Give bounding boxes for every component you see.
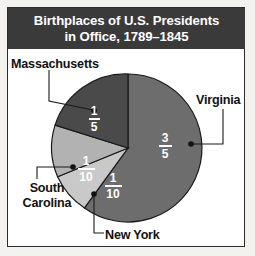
- pie-value-virginia: 3 5: [152, 132, 178, 160]
- pie-value-south-carolina: 1 10: [73, 155, 99, 183]
- pie-value-massachusetts-denominator: 5: [81, 121, 107, 133]
- pie-label-south-carolina-line-2: Carolina: [9, 196, 85, 211]
- pie-value-new-york-numerator: 1: [100, 172, 126, 184]
- pie-value-virginia-numerator: 3: [152, 132, 178, 144]
- figure-container: Birthplaces of U.S. Presidents in Office…: [0, 0, 255, 256]
- pie-value-new-york-denominator: 10: [100, 188, 126, 200]
- pie-label-massachusetts: Massachusetts: [11, 57, 99, 72]
- pie-value-virginia-denominator: 5: [152, 148, 178, 160]
- pie-value-massachusetts: 1 5: [81, 105, 107, 133]
- pie-label-south-carolina-line-1: South: [9, 181, 85, 196]
- pie-label-south-carolina: South Carolina: [9, 181, 85, 210]
- pie-value-south-carolina-denominator: 10: [73, 171, 99, 183]
- pie-label-new-york: New York: [105, 228, 160, 243]
- leader-dot-new-york: [91, 191, 97, 197]
- leader-dot-virginia: [188, 141, 194, 147]
- pie-value-south-carolina-numerator: 1: [73, 155, 99, 167]
- pie-label-virginia: Virginia: [196, 93, 240, 108]
- pie-value-new-york: 1 10: [100, 172, 126, 200]
- pie-value-massachusetts-numerator: 1: [81, 105, 107, 117]
- pie-chart-graphic: [0, 0, 255, 256]
